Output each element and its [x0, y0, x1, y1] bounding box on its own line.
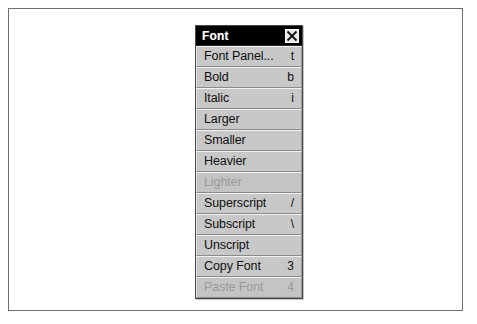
menu-item-label: Unscript [204, 235, 249, 256]
menu-item[interactable]: Superscript/ [196, 193, 302, 214]
menu-item-shortcut: b [286, 67, 294, 88]
menu-item-shortcut: 3 [286, 256, 294, 277]
menu-item-label: Subscript [204, 214, 255, 235]
menu-item-label: Superscript [204, 193, 266, 214]
menu-item-label: Heavier [204, 151, 246, 172]
window-titlebar[interactable]: Font [196, 26, 302, 46]
menu-item-label: Font Panel... [204, 46, 274, 67]
figure-frame: Font Font Panel...tBoldbItaliciLargerSma… [8, 8, 463, 311]
menu-item: Paste Font4 [196, 277, 302, 298]
menu-item: Lighter [196, 172, 302, 193]
font-menu-list: Font Panel...tBoldbItaliciLargerSmallerH… [196, 46, 302, 298]
menu-item-label: Paste Font [204, 277, 263, 298]
menu-item[interactable]: Font Panel...t [196, 46, 302, 67]
menu-item-label: Smaller [204, 130, 246, 151]
menu-item-label: Larger [204, 109, 240, 130]
menu-item-shortcut: t [286, 46, 294, 67]
menu-item-label: Italic [204, 88, 229, 109]
menu-item-label: Copy Font [204, 256, 261, 277]
menu-item-shortcut: / [286, 193, 294, 214]
font-menu-window: Font Font Panel...tBoldbItaliciLargerSma… [195, 25, 303, 299]
menu-item[interactable]: Smaller [196, 130, 302, 151]
menu-item-label: Lighter [204, 172, 242, 193]
menu-item-shortcut: 4 [286, 277, 294, 298]
menu-item-shortcut: i [286, 88, 294, 109]
menu-item[interactable]: Subscript\ [196, 214, 302, 235]
menu-item[interactable]: Unscript [196, 235, 302, 256]
menu-item[interactable]: Boldb [196, 67, 302, 88]
close-x-icon[interactable] [285, 29, 299, 43]
menu-item[interactable]: Larger [196, 109, 302, 130]
window-title: Font [202, 26, 229, 46]
menu-item[interactable]: Copy Font3 [196, 256, 302, 277]
menu-item-shortcut: \ [286, 214, 294, 235]
menu-item-label: Bold [204, 67, 229, 88]
menu-item[interactable]: Heavier [196, 151, 302, 172]
menu-item[interactable]: Italici [196, 88, 302, 109]
